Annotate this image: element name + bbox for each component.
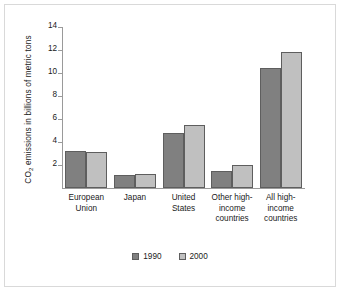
bar-1990 <box>163 133 184 188</box>
y-tick-mark <box>58 142 62 143</box>
bar-1990 <box>114 175 135 188</box>
category-label-line: Union <box>51 204 121 215</box>
bar-group <box>114 27 156 188</box>
y-axis-title-subscript: 2 <box>26 167 33 171</box>
category-label: All high-incomecountries <box>246 193 316 225</box>
y-tick-mark <box>58 96 62 97</box>
legend-label: 1990 <box>143 252 161 261</box>
y-tick-label: 14 <box>48 21 57 30</box>
y-tick-mark <box>58 73 62 74</box>
x-axis-line <box>62 188 305 189</box>
y-tick-label: 2 <box>52 159 57 168</box>
category-label-line: countries <box>246 214 316 225</box>
y-tick-label: 12 <box>48 44 57 53</box>
legend-item-1990[interactable]: 1990 <box>132 252 161 261</box>
chart-figure: CO2 emissions in billions of metric tons… <box>0 0 340 291</box>
bar-1990 <box>260 68 281 188</box>
y-tick-label: 10 <box>48 67 57 76</box>
bar-2000 <box>184 125 205 188</box>
y-tick-mark <box>58 119 62 120</box>
y-tick-mark <box>58 27 62 28</box>
bar-2000 <box>232 165 253 188</box>
bar-1990 <box>211 171 232 188</box>
y-tick-mark <box>58 50 62 51</box>
category-label-line: income <box>246 204 316 215</box>
y-tick-label: 8 <box>52 90 57 99</box>
category-label-line: All high- <box>246 193 316 204</box>
bar-group <box>65 27 107 188</box>
y-tick-label: 4 <box>52 136 57 145</box>
chart-legend: 19902000 <box>0 252 340 261</box>
bar-group <box>163 27 205 188</box>
bar-2000 <box>86 152 107 188</box>
y-tick-mark <box>58 165 62 166</box>
y-tick-label: 6 <box>52 113 57 122</box>
bar-1990 <box>65 151 86 188</box>
bar-group <box>260 27 302 188</box>
legend-item-2000[interactable]: 2000 <box>179 252 208 261</box>
bar-2000 <box>281 52 302 188</box>
y-axis-line <box>62 27 63 188</box>
legend-swatch-icon <box>132 253 139 260</box>
bar-2000 <box>135 174 156 188</box>
y-axis-title: CO2 emissions in billions of metric tons <box>24 20 33 200</box>
legend-swatch-icon <box>179 253 186 260</box>
y-axis-title-suffix: emissions in billions of metric tons <box>24 35 33 167</box>
plot-area: 2468101214 EuropeanUnionJapanUnitedState… <box>62 27 305 188</box>
legend-label: 2000 <box>190 252 208 261</box>
y-axis-title-prefix: CO <box>24 171 33 184</box>
bar-group <box>211 27 253 188</box>
